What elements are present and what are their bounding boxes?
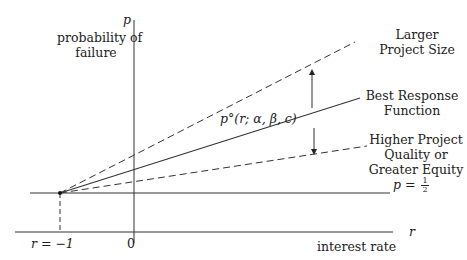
intersection-point xyxy=(58,191,62,195)
r-minus-one-label: r = −1 xyxy=(31,236,74,251)
y-axis-label: probability of failure xyxy=(57,30,135,60)
y-axis-symbol: p xyxy=(123,12,131,27)
x-axis-symbol: r xyxy=(409,224,415,239)
best-response-formula: p°(r; α, β, c) xyxy=(220,111,297,126)
best-response-line xyxy=(60,98,360,193)
origin-tick-label: 0 xyxy=(127,236,135,251)
higher-quality-line xyxy=(60,146,367,193)
half-probability-label: p = 12 xyxy=(393,177,429,194)
higher-quality-label: Higher Project Quality or Greater Equity xyxy=(368,132,464,177)
larger-project-size-label: Larger Project Size xyxy=(372,27,462,57)
x-axis-label: interest rate xyxy=(317,239,396,254)
best-response-label: Best Response Function xyxy=(362,88,462,118)
